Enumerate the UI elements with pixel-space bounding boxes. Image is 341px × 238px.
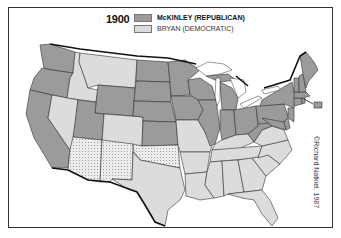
state-NM [100, 140, 133, 182]
legend-label-republican: McKINLEY (REPUBLICAN) [157, 14, 245, 21]
inset-RI-box [314, 102, 322, 108]
legend-swatch-republican [134, 14, 152, 22]
copyright-credit: ©Richard Natkiel, 1987 [313, 136, 320, 208]
state-MA [294, 92, 310, 98]
state-NJ [288, 108, 294, 122]
state-CT [294, 98, 302, 106]
state-MT [79, 53, 137, 88]
state-WI [188, 78, 216, 100]
state-VT [294, 78, 299, 92]
state-SD [134, 81, 171, 102]
state-WY [95, 85, 135, 116]
state-ND [136, 60, 170, 82]
state-AZ [68, 137, 102, 182]
us-election-map [0, 0, 341, 238]
legend-label-democratic: BRYAN (DEMOCRATIC) [157, 25, 234, 32]
state-KS [142, 121, 178, 146]
state-IN [220, 110, 236, 140]
election-year: 1900 [106, 13, 129, 25]
state-FL [228, 190, 278, 226]
inset-pointer [304, 99, 313, 104]
state-AR [180, 152, 210, 174]
legend-swatch-democratic [134, 25, 152, 33]
